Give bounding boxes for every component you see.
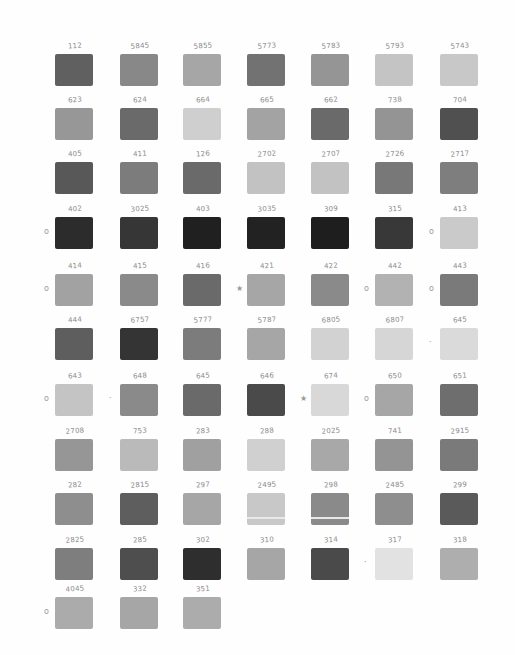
circle-mark-icon: o <box>429 227 434 236</box>
swatch-label: 2707 <box>311 149 351 160</box>
swatch-label: 645 <box>440 315 480 326</box>
swatch-color-block <box>311 54 349 86</box>
swatch-color-block <box>120 54 158 86</box>
swatch-color-block <box>440 274 478 306</box>
swatch-color-block <box>120 597 158 629</box>
swatch-label: 664 <box>183 95 223 106</box>
swatch-color-block <box>440 108 478 140</box>
swatch-label: 285 <box>120 535 160 546</box>
swatch: 645· <box>440 316 480 366</box>
swatch: 741 <box>375 427 415 477</box>
swatch: 6805 <box>311 316 351 366</box>
swatch: 2717 <box>440 150 480 200</box>
swatch-label: 332 <box>120 584 160 595</box>
swatch-label: 2495 <box>247 480 287 491</box>
swatch-label: 623 <box>55 95 95 106</box>
swatch-color-block <box>375 217 413 249</box>
swatch-color-block <box>247 328 285 360</box>
swatch-color-block <box>183 328 221 360</box>
swatch-label: 126 <box>183 149 223 160</box>
swatch-color-block <box>183 439 221 471</box>
swatch-color-block <box>375 54 413 86</box>
swatch: 5783 <box>311 42 351 92</box>
swatch-label: 650 <box>375 371 415 382</box>
swatch-color-block <box>120 108 158 140</box>
swatch: 351 <box>183 585 223 635</box>
swatch-label: 414 <box>55 261 95 272</box>
swatch-color-block <box>440 439 478 471</box>
swatch: 5743 <box>440 42 480 92</box>
swatch-label: 674 <box>311 371 351 382</box>
swatch-label: 2485 <box>375 480 415 491</box>
swatch-color-block <box>247 384 285 416</box>
swatch-color-block <box>440 162 478 194</box>
swatch: 6757 <box>120 316 160 366</box>
swatch-color-block <box>183 217 221 249</box>
swatch: 310 <box>247 536 287 586</box>
swatch-label: 402 <box>55 204 95 215</box>
swatch-color-block <box>55 274 93 306</box>
swatch: 421★ <box>247 262 287 312</box>
swatch-color-block <box>311 328 349 360</box>
swatch-label: 288 <box>247 426 287 437</box>
swatch-color-block <box>440 54 478 86</box>
swatch-color-block <box>311 548 349 580</box>
swatch-color-block <box>120 217 158 249</box>
swatch-label: 2702 <box>247 149 287 160</box>
circle-mark-icon: o <box>44 607 49 616</box>
swatch: 402o <box>55 205 95 255</box>
swatch: 315 <box>375 205 415 255</box>
swatch-color-block <box>375 384 413 416</box>
swatch-color-block <box>375 493 413 525</box>
swatch-label: 318 <box>440 535 480 546</box>
swatch-label: 413 <box>440 204 480 215</box>
swatch: 2708 <box>55 427 95 477</box>
swatch-color-block <box>55 217 93 249</box>
swatch-color-block <box>55 54 93 86</box>
swatch: 282 <box>55 481 95 531</box>
swatch-label: 2915 <box>440 426 480 437</box>
swatch-color-block <box>375 108 413 140</box>
swatch: 2485 <box>375 481 415 531</box>
swatch-color-block <box>55 328 93 360</box>
swatch-color-block <box>311 439 349 471</box>
swatch-color-block <box>183 162 221 194</box>
swatch: 317· <box>375 536 415 586</box>
swatch-label: 5773 <box>247 41 287 52</box>
circle-mark-icon: o <box>429 284 434 293</box>
swatch-label: 6757 <box>120 315 160 326</box>
swatch-color-block <box>440 384 478 416</box>
swatch: 623 <box>55 96 95 146</box>
swatch-label: 704 <box>440 95 480 106</box>
swatch-label: 297 <box>183 480 223 491</box>
swatch-label: 651 <box>440 371 480 382</box>
swatch-color-block <box>247 162 285 194</box>
swatch: 415 <box>120 262 160 312</box>
swatch-label: 444 <box>55 315 95 326</box>
swatch-label: 753 <box>120 426 160 437</box>
swatch: 298 <box>311 481 351 531</box>
swatch-label: 302 <box>183 535 223 546</box>
swatch-color-block <box>311 162 349 194</box>
swatch: 3025 <box>120 205 160 255</box>
swatch: 444 <box>55 316 95 366</box>
star-mark-icon: ★ <box>236 284 243 293</box>
swatch-label: 2825 <box>55 535 95 546</box>
swatch-color-block <box>183 548 221 580</box>
swatch: 302 <box>183 536 223 586</box>
swatch-label: 310 <box>247 535 287 546</box>
swatch: 2915 <box>440 427 480 477</box>
swatch-label: 422 <box>311 261 351 272</box>
swatch-color-block <box>375 439 413 471</box>
swatch-color-block <box>311 384 349 416</box>
swatch-color-block <box>183 597 221 629</box>
swatch: 5845 <box>120 42 160 92</box>
swatch: 3035 <box>247 205 287 255</box>
swatch: 405 <box>55 150 95 200</box>
swatch-color-block <box>247 108 285 140</box>
swatch-label: 421 <box>247 261 287 272</box>
swatch: 422 <box>311 262 351 312</box>
swatch-label: 6805 <box>311 315 351 326</box>
swatch: 651 <box>440 372 480 422</box>
swatch-label: 5787 <box>247 315 287 326</box>
